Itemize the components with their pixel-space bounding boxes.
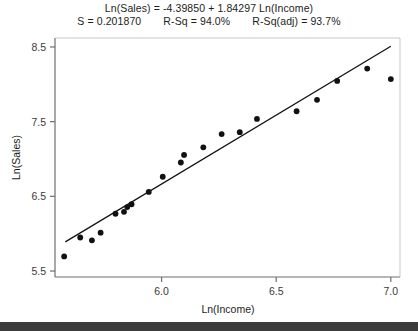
data-point (219, 131, 225, 137)
y-tick-label: 8.5 (31, 41, 46, 53)
x-tick-label: 6.0 (154, 285, 169, 297)
data-point (178, 160, 184, 166)
plot-area: 5.56.57.58.5 6.06.57.0 Ln(Sales) Ln(Inco… (0, 0, 418, 331)
x-tick-label: 7.0 (384, 285, 399, 297)
x-tick-label: 6.5 (269, 285, 284, 297)
footer-bar (0, 322, 418, 331)
data-point (146, 189, 152, 195)
data-point (113, 211, 119, 217)
data-point (121, 209, 127, 215)
data-point (61, 254, 67, 260)
y-tick-label: 7.5 (31, 116, 46, 128)
data-point (294, 108, 300, 114)
data-point (77, 235, 83, 241)
axes-frame (55, 38, 400, 277)
y-tick-labels: 5.56.57.58.5 (31, 41, 46, 277)
data-point (314, 97, 320, 103)
y-tick-marks (50, 47, 55, 271)
data-point (237, 129, 243, 135)
data-point (181, 152, 187, 158)
x-tick-labels: 6.06.57.0 (154, 285, 398, 297)
y-axis-label: Ln(Sales) (10, 135, 22, 180)
data-point (334, 78, 340, 84)
data-point (364, 66, 370, 72)
data-point (200, 144, 206, 150)
data-point (254, 116, 260, 122)
x-tick-marks (162, 277, 391, 282)
data-point (98, 230, 104, 236)
data-point (129, 201, 135, 207)
x-axis-label: Ln(Income) (201, 303, 254, 315)
y-tick-label: 5.5 (31, 265, 46, 277)
scatter-points (61, 66, 393, 260)
y-tick-label: 6.5 (31, 190, 46, 202)
data-point (160, 174, 166, 180)
data-point (89, 237, 95, 243)
data-point (388, 76, 394, 82)
regression-scatter-figure: Ln(Sales) = -4.39850 + 1.84297 Ln(Income… (0, 0, 418, 331)
